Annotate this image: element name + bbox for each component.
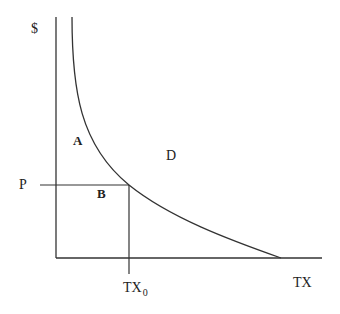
quantity-label: TX0 <box>123 281 148 295</box>
region-b-label: B <box>97 187 106 200</box>
y-axis-label: $ <box>31 22 38 36</box>
region-a-label: A <box>73 134 82 147</box>
demand-curve <box>72 17 281 258</box>
region-d-label: D <box>166 149 176 163</box>
quantity-label-main: TX <box>123 280 142 295</box>
x-axis-label: TX <box>293 276 312 290</box>
price-label: P <box>19 178 27 192</box>
quantity-label-subscript: 0 <box>143 287 148 298</box>
